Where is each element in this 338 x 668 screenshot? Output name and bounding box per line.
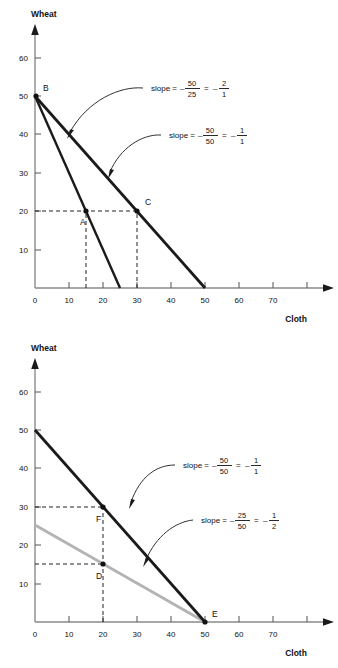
x-axis-title-bottom: Cloth <box>285 648 307 658</box>
slope-eq-black: = <box>236 461 241 470</box>
slope-minus2-gray: – <box>263 516 268 525</box>
chart-bottom: Wheat 60 50 40 30 20 10 0 10 20 30 40 50 <box>0 334 338 668</box>
x-tick-70-top: 70 <box>269 296 278 305</box>
series-gray-ppf-bottom <box>35 525 205 622</box>
data-point-C <box>134 208 139 213</box>
data-point-D <box>100 561 105 566</box>
x-tick-40-bottom: 40 <box>167 630 176 639</box>
chart-top: Wheat 60 50 40 30 20 10 0 10 20 30 40 <box>0 0 338 334</box>
series-steep-ppf-top <box>35 96 120 288</box>
slope-den2-gray: 2 <box>272 522 276 531</box>
slope-den2-flat: 1 <box>240 137 244 146</box>
x-tick-70-bottom: 70 <box>269 630 278 639</box>
x-tick-30-bottom: 30 <box>133 630 142 639</box>
point-label-D: D <box>96 571 102 581</box>
y-tick-60-bottom: 60 <box>19 388 28 397</box>
slope-num2-steep: 2 <box>222 79 226 88</box>
y-tick-30-bottom: 30 <box>19 503 28 512</box>
y-tick-20-top: 20 <box>19 207 28 216</box>
y-tick-60-top: 60 <box>19 54 28 63</box>
slope-minus1-black: – <box>212 461 217 470</box>
axes-top <box>31 24 334 292</box>
y-ticks-bottom: 60 50 40 30 20 10 <box>19 388 41 589</box>
slope-prefix-steep: slope = <box>151 84 177 93</box>
point-label-E: E <box>212 609 218 619</box>
slope-prefix-flat: slope = <box>169 131 195 140</box>
y-tick-50-top: 50 <box>19 92 28 101</box>
slope-minus1-steep: – <box>180 84 185 93</box>
slope-den2-steep: 1 <box>222 90 226 99</box>
slope-num1-black: 50 <box>220 456 228 465</box>
guide-lines-top <box>35 211 137 288</box>
slope-minus2-steep: – <box>213 84 218 93</box>
slope-den1-flat: 50 <box>206 137 214 146</box>
slope-prefix-gray: slope = <box>201 516 227 525</box>
slope-num2-gray: 1 <box>272 511 276 520</box>
y-ticks-top: 60 50 40 30 20 10 <box>19 54 41 255</box>
slope-den1-steep: 25 <box>188 90 196 99</box>
x-tick-50-bottom: 50 <box>201 630 210 639</box>
series-black-ppf-bottom <box>35 430 205 622</box>
data-point-E <box>202 619 207 624</box>
slope-eq-gray: = <box>254 516 259 525</box>
slope-minus1-gray: – <box>230 516 235 525</box>
data-point-A <box>83 208 88 213</box>
data-point-F <box>100 504 105 509</box>
annotation-flat-top: slope = – 50 50 = – 1 1 <box>108 126 247 179</box>
guide-lines-bottom <box>35 507 103 622</box>
point-label-B: B <box>43 83 49 93</box>
slope-eq-flat: = <box>222 131 227 140</box>
y-tick-30-top: 30 <box>19 169 28 178</box>
slope-minus2-flat: – <box>231 131 236 140</box>
x-tick-0-bottom: 0 <box>33 630 38 639</box>
slope-num2-flat: 1 <box>240 126 244 135</box>
slope-num1-steep: 50 <box>188 79 196 88</box>
x-tick-50-top: 50 <box>201 296 210 305</box>
x-tick-0-top: 0 <box>33 296 38 305</box>
slope-minus2-black: – <box>245 461 250 470</box>
annotation-gray-bottom: slope = – 25 50 = – 1 2 <box>143 511 279 567</box>
data-point-B <box>33 93 38 98</box>
y-tick-40-bottom: 40 <box>19 464 28 473</box>
y-tick-40-top: 40 <box>19 130 28 139</box>
axes-bottom <box>31 358 334 626</box>
x-tick-10-top: 10 <box>65 296 74 305</box>
y-axis-title-top: Wheat <box>31 9 57 19</box>
slope-num2-black: 1 <box>254 456 258 465</box>
slope-den2-black: 1 <box>254 467 258 476</box>
slope-num1-flat: 50 <box>206 126 214 135</box>
slope-den1-black: 50 <box>220 467 228 476</box>
y-tick-50-bottom: 50 <box>19 426 28 435</box>
x-ticks-top: 0 10 20 30 40 50 60 70 <box>33 282 307 305</box>
annotation-steep-top: slope = – 50 25 = – 2 1 <box>67 79 229 139</box>
x-axis-title-top: Cloth <box>285 314 307 324</box>
point-label-A: A <box>80 217 86 227</box>
slope-den1-gray: 50 <box>238 522 246 531</box>
slope-minus1-flat: – <box>198 131 203 140</box>
slope-eq-steep: = <box>204 84 209 93</box>
y-tick-10-bottom: 10 <box>19 580 28 589</box>
x-tick-40-top: 40 <box>167 296 176 305</box>
x-tick-10-bottom: 10 <box>65 630 74 639</box>
x-ticks-bottom: 0 10 20 30 40 50 60 70 <box>33 616 307 639</box>
x-tick-60-bottom: 60 <box>235 630 244 639</box>
slope-num1-gray: 25 <box>238 511 246 520</box>
series-flat-ppf-top <box>35 96 205 288</box>
y-tick-20-bottom: 20 <box>19 541 28 550</box>
point-label-C: C <box>145 197 151 207</box>
x-tick-30-top: 30 <box>133 296 142 305</box>
y-axis-title-bottom: Wheat <box>31 343 57 353</box>
y-tick-10-top: 10 <box>19 246 28 255</box>
annotation-black-bottom: slope = – 50 50 = – 1 1 <box>129 456 261 509</box>
point-label-F: F <box>96 514 101 524</box>
slope-prefix-black: slope = <box>183 461 209 470</box>
x-tick-60-top: 60 <box>235 296 244 305</box>
x-tick-20-bottom: 20 <box>99 630 108 639</box>
x-tick-20-top: 20 <box>99 296 108 305</box>
